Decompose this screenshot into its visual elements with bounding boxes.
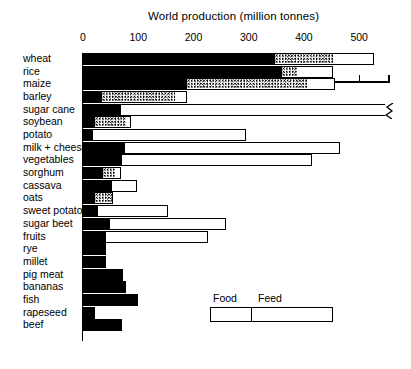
bar-segment-food: [83, 192, 95, 204]
bar-segment-food: [83, 154, 122, 166]
bar-segment-feed: [102, 91, 175, 103]
plot-area: wheatricemaizebarleysugar canesoybeanpot…: [0, 53, 411, 341]
bar-segment-other: [93, 129, 246, 141]
bar-segment-other: [106, 231, 208, 243]
legend-label-feed: Feed: [258, 292, 282, 304]
bar-segment-food: [83, 142, 125, 154]
bar-segment-food: [83, 319, 122, 331]
bar-segment-food: [83, 66, 282, 78]
x-tick-label-200: 200: [185, 31, 203, 43]
axis-break-marker-icon: [382, 103, 396, 122]
bar-segment-food: [83, 256, 106, 268]
category-label-rye: rye: [23, 242, 123, 254]
x-tick-label-300: 300: [240, 31, 258, 43]
x-tick-label-500: 500: [350, 31, 368, 43]
bar-segment-food: [83, 167, 103, 179]
bar-segment-other: [297, 66, 333, 78]
bar-segment-food: [83, 129, 93, 141]
bar-segment-other: [110, 218, 226, 230]
bar-segment-food: [83, 281, 126, 293]
chart-figure: World production (million tonnes) 010020…: [0, 0, 411, 369]
legend-swatch-bar: [210, 307, 333, 322]
bar-segment-other: [175, 91, 187, 103]
bar-segment-other: [126, 116, 132, 128]
bar-segment-food: [83, 231, 106, 243]
bar-segment-food: [83, 91, 102, 103]
bar-segment-food: [83, 205, 98, 217]
legend: Food Feed: [210, 292, 340, 328]
bar-segment-food: [83, 104, 121, 116]
bar-segment-other: [98, 205, 167, 217]
x-axis: 0100200300400500: [0, 31, 411, 53]
bar-segment-food: [83, 53, 275, 65]
bar-segment-other: [125, 142, 340, 154]
bar-segment-other: [121, 104, 385, 116]
bar-segment-other: [333, 53, 374, 65]
bar-segment-feed: [95, 116, 125, 128]
category-label-millet: millet: [23, 255, 123, 267]
bar-segment-food: [83, 218, 110, 230]
bar-segment-feed: [187, 78, 309, 90]
bar-segment-feed: [103, 167, 115, 179]
bar-row: beef: [0, 319, 411, 332]
legend-swatch-other: [211, 308, 251, 321]
chart-title: World production (million tonnes): [0, 10, 411, 22]
bar-segment-feed: [275, 53, 333, 65]
category-label-rapeseed: rapeseed: [23, 306, 123, 318]
bar-segment-other: [122, 154, 313, 166]
bar-segment-food: [83, 180, 112, 192]
bar-segment-food: [83, 269, 123, 281]
bar-segment-food: [83, 307, 95, 319]
bar-segment-food: [83, 294, 138, 306]
x-tick-label-0: 0: [80, 31, 86, 43]
legend-label-food: Food: [213, 292, 237, 304]
bar-segment-other: [112, 180, 137, 192]
bar-segment-feed: [95, 192, 113, 204]
x-tick-label-400: 400: [295, 31, 313, 43]
bar-segment-food: [83, 78, 187, 90]
bar-segment-other: [308, 78, 335, 90]
bar-segment-food: [83, 243, 106, 255]
bar-segment-food: [83, 116, 95, 128]
bar-segment-feed: [282, 66, 297, 78]
bar-segment-other: [115, 167, 121, 179]
x-tick-label-100: 100: [129, 31, 147, 43]
